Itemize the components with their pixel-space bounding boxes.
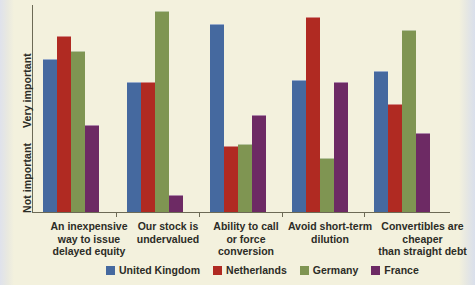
category-label-3: Ability to callor forceconversion bbox=[200, 220, 292, 258]
legend-swatch-icon-3 bbox=[300, 266, 309, 275]
bar-united-kingdom-group-1 bbox=[43, 59, 57, 212]
bar-united-kingdom-group-2 bbox=[127, 82, 141, 212]
legend-label-4: France bbox=[384, 264, 418, 276]
chart-legend: United KingdomNetherlandsGermanyFrance bbox=[106, 264, 419, 276]
category-label-3-line-2: or force bbox=[200, 233, 292, 246]
bar-germany-group-3 bbox=[238, 144, 252, 212]
bar-germany-group-4 bbox=[320, 158, 334, 212]
legend-item-germany[interactable]: Germany bbox=[300, 264, 359, 276]
bar-netherlands-group-4 bbox=[306, 17, 320, 212]
bar-germany-group-1 bbox=[71, 51, 85, 212]
category-label-4-line-1: Avoid short-term bbox=[280, 220, 380, 233]
x-axis-tick-2 bbox=[199, 212, 200, 217]
bar-netherlands-group-2 bbox=[141, 82, 155, 212]
bar-france-group-5 bbox=[416, 133, 430, 212]
bar-netherlands-group-1 bbox=[57, 36, 71, 212]
category-label-3-line-1: Ability to call bbox=[200, 220, 292, 233]
legend-swatch-icon-4 bbox=[371, 266, 380, 275]
plot-area bbox=[33, 5, 450, 212]
bar-france-group-1 bbox=[85, 125, 99, 212]
legend-swatch-icon-1 bbox=[106, 266, 115, 275]
bar-germany-group-5 bbox=[402, 30, 416, 212]
category-label-4-line-2: dilution bbox=[280, 233, 380, 246]
bar-france-group-2 bbox=[169, 195, 183, 212]
bar-france-group-4 bbox=[334, 82, 348, 212]
legend-label-3: Germany bbox=[313, 264, 359, 276]
category-label-1-line-3: delayed equity bbox=[30, 245, 148, 258]
category-label-4: Avoid short-termdilution bbox=[280, 220, 380, 245]
chart-page: Very important Not important An inexpens… bbox=[0, 0, 475, 285]
bar-united-kingdom-group-4 bbox=[292, 80, 306, 212]
bar-france-group-3 bbox=[252, 115, 266, 212]
x-axis-tick-3 bbox=[282, 212, 283, 217]
category-label-5: Convertibles arecheaperthan straight deb… bbox=[370, 220, 475, 258]
x-axis-tick-1 bbox=[116, 212, 117, 217]
x-axis-tick-4 bbox=[364, 212, 365, 217]
page-edge-shading-left bbox=[0, 0, 14, 285]
legend-item-united-kingdom[interactable]: United Kingdom bbox=[106, 264, 200, 276]
category-label-5-line-3: than straight debt bbox=[370, 245, 475, 258]
category-label-3-line-3: conversion bbox=[200, 245, 292, 258]
legend-item-france[interactable]: France bbox=[371, 264, 418, 276]
category-label-5-line-2: cheaper bbox=[370, 233, 475, 246]
legend-item-netherlands[interactable]: Netherlands bbox=[213, 264, 287, 276]
bar-germany-group-2 bbox=[155, 11, 169, 212]
legend-label-2: Netherlands bbox=[226, 264, 287, 276]
x-axis-line bbox=[32, 212, 450, 213]
bar-united-kingdom-group-5 bbox=[374, 71, 388, 212]
bar-netherlands-group-3 bbox=[224, 146, 238, 212]
legend-label-1: United Kingdom bbox=[119, 264, 200, 276]
bar-united-kingdom-group-3 bbox=[210, 24, 224, 212]
category-label-5-line-1: Convertibles are bbox=[370, 220, 475, 233]
legend-swatch-icon-2 bbox=[213, 266, 222, 275]
bar-netherlands-group-5 bbox=[388, 104, 402, 212]
y-axis-label-not-important: Not important bbox=[21, 83, 33, 213]
